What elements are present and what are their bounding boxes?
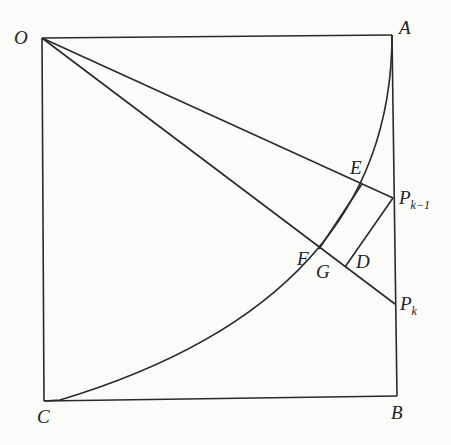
label-D: D <box>355 251 370 272</box>
label-A: A <box>397 17 411 38</box>
label-G: G <box>316 261 330 282</box>
side-OA <box>42 35 392 38</box>
label-Pk-1: Pk−1 <box>398 187 430 212</box>
label-E: E <box>349 157 362 178</box>
line-E-F <box>319 184 362 249</box>
side-CO <box>42 38 44 401</box>
label-F: F <box>296 248 309 269</box>
geometry-diagram: O A B C E F G D Pk−1 Pk <box>0 0 451 445</box>
label-B: B <box>391 402 403 423</box>
side-AB <box>392 35 397 396</box>
label-O: O <box>14 27 28 48</box>
side-BC <box>44 396 397 401</box>
label-C: C <box>37 406 50 427</box>
line-O-Pk-1 <box>42 38 393 198</box>
line-O-Pk <box>42 38 395 304</box>
label-Pk: Pk <box>399 293 418 318</box>
